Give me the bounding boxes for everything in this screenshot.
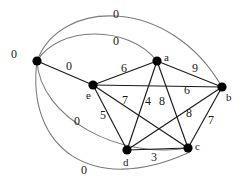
node-label-c: c: [195, 141, 200, 152]
edge-weight-d-b: 8: [186, 107, 192, 119]
edge-c-b: [188, 87, 222, 148]
node-source[interactable]: [32, 56, 41, 65]
edge-weight-s-b: 0: [113, 8, 119, 20]
edge-e-b: [93, 85, 222, 87]
edge-weight-a-c: 8: [159, 95, 165, 107]
edge-weight-s-c: 0: [74, 115, 80, 127]
edge-weight-s-d: 0: [81, 164, 87, 176]
node-c[interactable]: [183, 143, 192, 152]
edge-weight-a-d: 4: [145, 95, 151, 107]
edge-weight-s-a: 0: [113, 35, 119, 47]
edge-weight-d-c: 3: [151, 151, 157, 163]
edge-s-c-curve: [37, 61, 188, 150]
edge-a-d: [127, 61, 157, 150]
node-label-a: a: [164, 52, 169, 63]
edge-s-e: [37, 61, 93, 85]
edge-s-a-curve: [37, 34, 157, 61]
node-label-e: e: [86, 90, 91, 101]
node-a[interactable]: [152, 56, 161, 65]
node-label-d: d: [123, 157, 129, 168]
node-d[interactable]: [122, 145, 131, 154]
edge-weight-c-b: 7: [208, 114, 214, 126]
weighted-graph-figure: a b c d e 0 0 0 0 0 0 6 9 6 7 5 4 8 8 7 …: [0, 0, 241, 194]
edge-weight-a-b: 9: [192, 62, 198, 74]
node-label-b: b: [226, 92, 232, 103]
edge-weight-s-e: 0: [66, 60, 72, 72]
edge-weight-e-d: 5: [100, 109, 106, 121]
edge-weight-e-a: 6: [121, 62, 127, 74]
edge-weight-e-c: 7: [122, 94, 128, 106]
edge-e-c: [93, 85, 188, 148]
graph-canvas: [0, 0, 241, 194]
edge-weight-e-b: 6: [184, 84, 190, 96]
edge-weight-source-marker: 0: [11, 48, 17, 60]
